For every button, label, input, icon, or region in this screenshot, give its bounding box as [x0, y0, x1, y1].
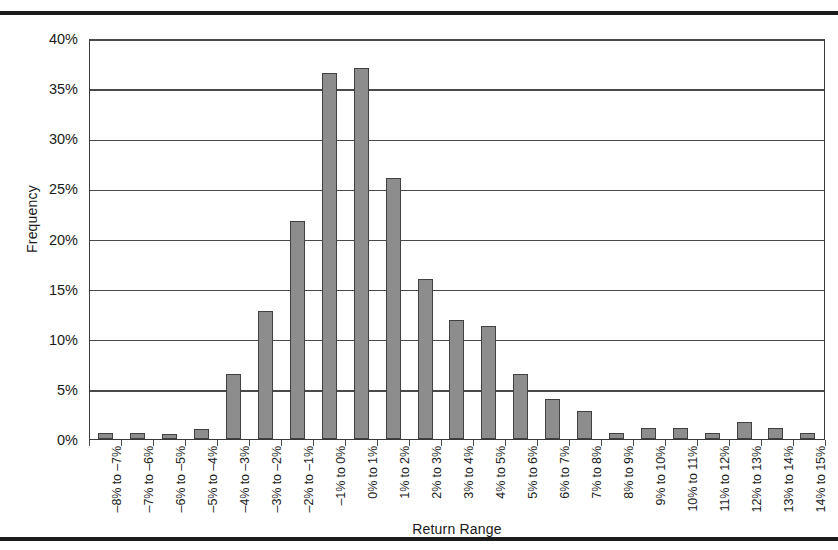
x-axis-title: Return Range: [89, 521, 825, 537]
bar[interactable]: [768, 428, 783, 439]
x-axis-label-slot: –8% to –7%: [89, 446, 121, 524]
bar-slot: [122, 40, 154, 439]
y-axis-title: Frequency: [24, 149, 40, 289]
bar[interactable]: [800, 433, 815, 439]
x-axis-label-slot: –6% to –5%: [153, 446, 185, 524]
bar-slot: [696, 40, 728, 439]
x-axis-label-slot: –5% to –4%: [185, 446, 217, 524]
bar[interactable]: [322, 73, 337, 439]
x-axis-label-slot: –7% to –6%: [121, 446, 153, 524]
x-axis-label-slot: –2% to –1%: [281, 446, 313, 524]
bar[interactable]: [641, 428, 656, 439]
bar-slot: [792, 40, 824, 439]
bar-slot: [313, 40, 345, 439]
bar-slot: [569, 40, 601, 439]
y-axis-tick-label: 15%: [20, 283, 78, 298]
bar[interactable]: [513, 374, 528, 439]
bar[interactable]: [162, 434, 177, 439]
bar-slot: [664, 40, 696, 439]
bar-slot: [601, 40, 633, 439]
bar[interactable]: [705, 433, 720, 439]
bar[interactable]: [130, 433, 145, 439]
bar-slot: [154, 40, 186, 439]
x-axis-label-slot: 6% to 7%: [537, 446, 569, 524]
bar-series: [90, 40, 824, 439]
x-axis-label-slot: 1% to 2%: [377, 446, 409, 524]
x-axis-label-slot: 4% to 5%: [473, 446, 505, 524]
bar[interactable]: [449, 320, 464, 439]
y-axis-tick-label: 5%: [20, 383, 78, 398]
bar-slot: [281, 40, 313, 439]
bar[interactable]: [418, 279, 433, 439]
bar[interactable]: [194, 429, 209, 439]
bar-slot: [473, 40, 505, 439]
x-axis-label-slot: 8% to 9%: [601, 446, 633, 524]
x-axis-label-slot: 11% to 12%: [697, 446, 729, 524]
x-axis-label-slot: –1% to 0%: [313, 446, 345, 524]
plot-area: [89, 39, 825, 440]
bar[interactable]: [673, 428, 688, 439]
bar-slot: [377, 40, 409, 439]
y-axis-tick-label: 30%: [20, 132, 78, 147]
bar[interactable]: [577, 411, 592, 439]
x-axis-label-slot: –4% to –3%: [217, 446, 249, 524]
x-axis-label-slot: 12% to 13%: [729, 446, 761, 524]
bar[interactable]: [354, 68, 369, 439]
bar[interactable]: [386, 178, 401, 439]
page-rule-bottom: [0, 537, 838, 541]
x-axis-label-slot: 5% to 6%: [505, 446, 537, 524]
y-axis-tick-label: 10%: [20, 333, 78, 348]
x-axis-label-slot: 2% to 3%: [409, 446, 441, 524]
bar-slot: [345, 40, 377, 439]
y-axis-tick-label: 20%: [20, 233, 78, 248]
y-axis-tick-label: 35%: [20, 82, 78, 97]
bar-slot: [632, 40, 664, 439]
bar-slot: [760, 40, 792, 439]
bar[interactable]: [737, 422, 752, 439]
x-axis-tick-labels: –8% to –7%–7% to –6%–6% to –5%–5% to –4%…: [89, 446, 825, 524]
bar[interactable]: [481, 326, 496, 439]
bar-slot: [441, 40, 473, 439]
bar[interactable]: [609, 433, 624, 439]
x-axis-label-slot: 13% to 14%: [761, 446, 793, 524]
x-axis-label-slot: 10% to 11%: [665, 446, 697, 524]
bar[interactable]: [545, 399, 560, 439]
bar[interactable]: [226, 374, 241, 439]
y-axis-tick-label: 0%: [20, 433, 78, 448]
bar[interactable]: [290, 221, 305, 439]
x-axis-label-slot: 9% to 10%: [633, 446, 665, 524]
bar[interactable]: [98, 433, 113, 439]
bar[interactable]: [258, 311, 273, 439]
x-axis-label-slot: 14% to 15%: [793, 446, 825, 524]
x-axis-label-slot: 3% to 4%: [441, 446, 473, 524]
histogram-figure: Frequency 0%5%10%15%20%25%30%35%40% –8% …: [0, 15, 838, 535]
x-axis-label-slot: –3% to –2%: [249, 446, 281, 524]
bar-slot: [537, 40, 569, 439]
y-axis-tick-label: 40%: [20, 32, 78, 47]
bar-slot: [728, 40, 760, 439]
x-axis-label-slot: 0% to 1%: [345, 446, 377, 524]
x-axis-tick-label: 14% to 15%: [815, 446, 828, 512]
y-axis-tick-label: 25%: [20, 182, 78, 197]
bar-slot: [250, 40, 282, 439]
bar-slot: [90, 40, 122, 439]
bar-slot: [409, 40, 441, 439]
bar-slot: [186, 40, 218, 439]
bar-slot: [505, 40, 537, 439]
bar-slot: [218, 40, 250, 439]
x-axis-label-slot: 7% to 8%: [569, 446, 601, 524]
